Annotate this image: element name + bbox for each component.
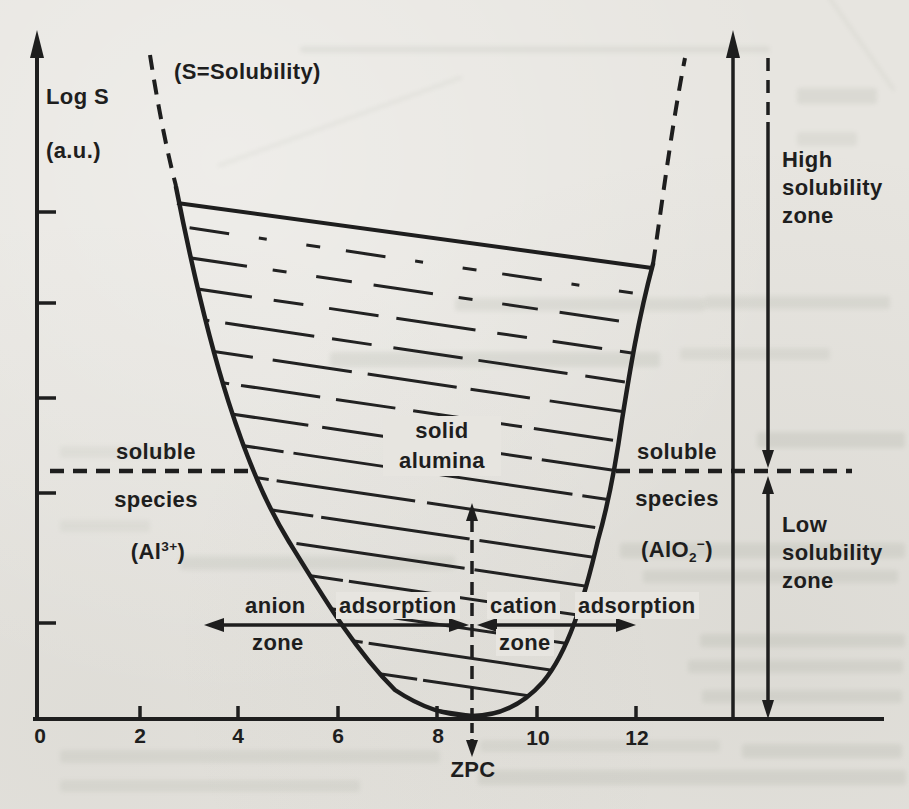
solubility-axis-arrow [726, 30, 740, 719]
y-axis-label-line2: (a.u.) [46, 138, 101, 163]
x-tick-label-6: 6 [332, 724, 344, 748]
liquid-level-line [177, 203, 652, 268]
solid-alumina-label: solid alumina [383, 416, 501, 476]
low-solubility-zone-label: Low solubility zone [782, 511, 904, 595]
solubility-note: (S=Solubility) [174, 58, 321, 85]
cation-word: cation [487, 592, 560, 619]
y-axis-arrowhead [30, 30, 44, 58]
right-soluble-label: soluble [618, 438, 736, 465]
left-soluble-label: soluble [97, 438, 215, 465]
left-species-label: species [97, 486, 215, 513]
cation-zone-word: zone [496, 629, 554, 656]
anion-adsorption-word: adsorption [336, 592, 460, 619]
right-species-formula: (AlO2−) [612, 509, 742, 563]
curve-left-dashed-extension [150, 55, 176, 186]
left-species-formula: (Al3+) [95, 511, 221, 565]
right-species-label: species [618, 485, 736, 512]
solubility-axis-arrowhead [726, 30, 740, 58]
solubility-zone-divider [762, 58, 774, 719]
zpc-down-arrowhead [466, 740, 478, 757]
x-tick-label-4: 4 [232, 724, 244, 748]
high-zone-down-arrowhead [762, 450, 774, 468]
x-tick-label-10: 10 [526, 726, 549, 750]
anion-word: anion [245, 592, 306, 619]
x-tick-label-8: 8 [432, 724, 444, 748]
y-axis-label: Log S (a.u.) [46, 56, 109, 164]
diagram-linework [0, 0, 909, 809]
y-axis-ticks [38, 212, 56, 623]
low-zone-up-arrowhead [762, 476, 774, 494]
cation-adsorption-word: adsorption [575, 592, 699, 619]
x-tick-label-0: 0 [34, 724, 46, 748]
anion-zone-word: zone [252, 629, 304, 656]
zpc-up-arrowhead [466, 503, 478, 521]
solubility-diagram: Log S (a.u.) (S=Solubility) High solubil… [0, 0, 909, 809]
zpc-label: ZPC [449, 756, 497, 783]
x-tick-label-12: 12 [625, 726, 648, 750]
curve-right-dashed-extension [653, 58, 685, 264]
low-zone-down-arrowhead [762, 700, 774, 719]
x-tick-label-2: 2 [134, 724, 146, 748]
y-axis-label-line1: Log S [46, 84, 109, 109]
high-solubility-zone-label: High solubility zone [782, 146, 904, 230]
